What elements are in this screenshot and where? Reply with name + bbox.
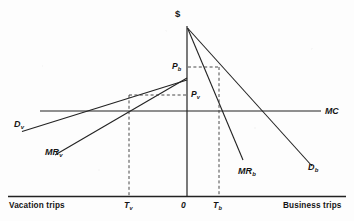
price-business-subscript: b — [178, 66, 181, 72]
marginal-revenue-vacation-symbol: MR — [45, 147, 59, 157]
marginal-revenue-vacation-curve — [55, 78, 187, 155]
marginal-cost-label: MC — [325, 107, 339, 116]
demand-business-subscript: b — [315, 167, 319, 173]
demand-business-label: Db — [308, 163, 318, 172]
quantity-vacation-subscript: v — [129, 205, 132, 211]
quantity-business-tick-label: Tb — [213, 201, 222, 210]
quantity-business-subscript: b — [218, 205, 221, 211]
y-axis-dollar-label: $ — [175, 9, 180, 19]
demand-vacation-curve — [22, 80, 187, 132]
axis-label-vacation-trips: Vacation trips — [9, 202, 65, 210]
quantity-vacation-tick-label: Tv — [124, 201, 132, 210]
price-vacation-subscript: v — [197, 94, 200, 100]
demand-vacation-symbol: D — [14, 119, 21, 129]
marginal-revenue-business-symbol: MR — [238, 166, 252, 176]
price-business-label: Pb — [172, 62, 181, 71]
price-business-symbol: P — [172, 61, 178, 71]
demand-business-curve — [188, 28, 313, 166]
marginal-revenue-business-label: MRb — [238, 167, 256, 176]
diagram-canvas — [0, 0, 354, 221]
price-discrimination-diagram: $ Pb Pv Dv MRv MRb Db MC Tv 0 Tb Vacatio… — [0, 0, 354, 221]
marginal-revenue-business-subscript: b — [252, 171, 256, 177]
marginal-revenue-vacation-subscript: v — [59, 152, 62, 158]
price-vacation-symbol: P — [191, 89, 197, 99]
origin-tick-label: 0 — [181, 201, 186, 210]
axis-label-business-trips: Business trips — [283, 202, 342, 210]
demand-business-symbol: D — [308, 162, 315, 172]
demand-vacation-subscript: v — [21, 124, 24, 130]
marginal-revenue-vacation-label: MRv — [45, 148, 62, 157]
price-vacation-label: Pv — [191, 90, 200, 99]
demand-vacation-label: Dv — [14, 120, 24, 129]
